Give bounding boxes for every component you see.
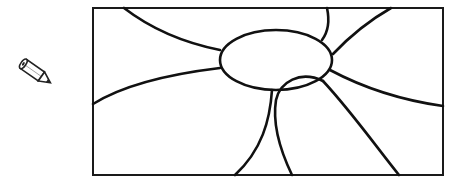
drawing-frame bbox=[93, 8, 443, 175]
drawing-canvas[interactable] bbox=[0, 0, 465, 184]
